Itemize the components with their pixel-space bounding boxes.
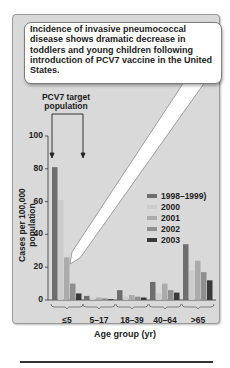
bar (76, 293, 82, 300)
x-tick-label: ≤5 (50, 315, 84, 325)
y-tick-label: 40 (23, 228, 43, 238)
legend-swatch (147, 216, 157, 220)
bar (96, 298, 102, 300)
bar (117, 290, 123, 300)
bar (123, 297, 129, 300)
target-population-label: PCV7 target population (36, 93, 96, 111)
legend-item: 2002 (147, 223, 206, 234)
x-axis-title: Age group (yr) (40, 329, 210, 339)
bar (207, 280, 213, 300)
y-tick-label: 0 (23, 294, 43, 304)
y-tick-label: 100 (23, 130, 43, 140)
bar (84, 296, 90, 300)
bar (90, 298, 96, 300)
bar (201, 272, 207, 300)
bar (64, 257, 70, 300)
legend-swatch (147, 227, 157, 231)
bar (129, 295, 135, 300)
x-tick-label: 5–17 (82, 315, 116, 325)
legend-item: 2000 (147, 201, 206, 212)
bar (168, 290, 174, 300)
bar (108, 299, 114, 300)
bar (135, 297, 141, 300)
y-tick-label: 60 (23, 196, 43, 206)
bar (183, 244, 189, 300)
bar (70, 284, 76, 300)
bar (102, 298, 108, 300)
legend-swatch (147, 194, 157, 198)
bar (58, 200, 64, 300)
divider (20, 361, 213, 363)
legend: 1998–1999) 2000 2001 2002 2003 (147, 190, 206, 245)
bar (174, 293, 180, 300)
bar (162, 284, 168, 300)
bar (52, 167, 58, 300)
x-tick-label: 40–64 (148, 315, 182, 325)
bar (195, 261, 201, 300)
bar (150, 282, 156, 300)
y-tick-label: 80 (23, 163, 43, 173)
legend-item: 2001 (147, 212, 206, 223)
legend-swatch (147, 205, 157, 209)
bar (156, 293, 162, 300)
legend-item: 1998–1999) (147, 190, 206, 201)
x-tick-label: 18–39 (115, 315, 149, 325)
y-tick-label: 20 (23, 261, 43, 271)
target-bracket (50, 114, 85, 158)
bar (189, 270, 195, 300)
legend-swatch (147, 238, 157, 242)
legend-item: 2003 (147, 234, 206, 245)
x-tick-label: >65 (181, 315, 215, 325)
bar (141, 298, 147, 300)
callout-text: Incidence of invasive pneumococcal disea… (30, 24, 220, 75)
